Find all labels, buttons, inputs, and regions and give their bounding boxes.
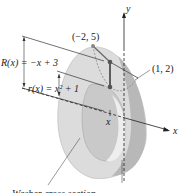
washer-diagram: y x (−2, 5) (1, 2) R(x) = −x + 3 r(x) = … xyxy=(0,0,183,193)
arrow-up-icon xyxy=(58,74,61,78)
y-axis-label: y xyxy=(125,3,131,14)
outer-radius-label: R(x) = −x + 3 xyxy=(0,57,58,69)
inner-radius-label: r(x) = x² + 1 xyxy=(28,83,79,95)
point-label-right: (1, 2) xyxy=(152,63,174,75)
caption: Washer cross section xyxy=(12,188,96,193)
point-leader xyxy=(135,70,150,80)
point-marker xyxy=(108,85,113,90)
point-marker xyxy=(108,60,113,65)
x-axis-arrow-icon xyxy=(163,127,170,132)
arrow-down-icon xyxy=(23,83,26,87)
x-marker-label: x xyxy=(105,116,111,127)
arrow-up-icon xyxy=(23,37,26,41)
x-axis-label: x xyxy=(172,125,178,136)
point-marker xyxy=(91,44,95,48)
point-label-top: (−2, 5) xyxy=(72,31,99,43)
